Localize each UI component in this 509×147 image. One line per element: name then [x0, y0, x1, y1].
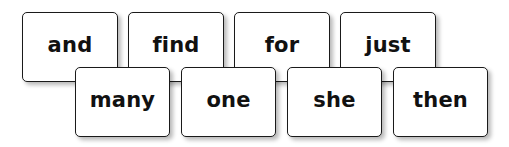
word-card-many: many [75, 67, 170, 137]
word-card-she: she [287, 67, 382, 137]
card-word: many [90, 88, 156, 112]
card-word: just [365, 33, 411, 57]
card-word: find [152, 33, 199, 57]
card-word: for [265, 33, 300, 57]
card-word: and [48, 33, 93, 57]
word-card-then: then [393, 67, 488, 137]
card-word: one [206, 88, 250, 112]
card-word: then [413, 88, 468, 112]
word-card-one: one [181, 67, 276, 137]
card-word: she [313, 88, 355, 112]
